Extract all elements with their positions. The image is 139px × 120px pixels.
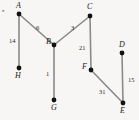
- graph-node-h: [17, 66, 22, 71]
- graph-node-c: [88, 14, 93, 19]
- node-label-e: E: [120, 107, 125, 115]
- edge-weight-a-b: 6: [36, 24, 39, 31]
- edge-weight-b-c: 3: [71, 24, 74, 31]
- edge-weight-a-h: 14: [9, 37, 16, 44]
- node-label-b: B: [46, 38, 51, 46]
- weighted-graph-figure: ▪ ABCDEFGH 14632113115: [0, 0, 139, 120]
- node-label-g: G: [51, 104, 57, 112]
- edge-weight-d-e: 15: [128, 76, 135, 83]
- node-label-h: H: [15, 72, 21, 80]
- graph-node-b: [52, 43, 57, 48]
- graph-edge-d-e: [122, 53, 123, 103]
- node-label-f: F: [82, 63, 87, 71]
- graph-canvas: [0, 0, 139, 120]
- graph-node-a: [17, 12, 22, 17]
- edge-weight-f-e: 31: [99, 88, 106, 95]
- graph-node-f: [89, 68, 94, 73]
- graph-edge-f-e: [91, 70, 123, 103]
- node-label-a: A: [16, 2, 21, 10]
- graph-node-e: [121, 101, 126, 106]
- graph-node-d: [120, 51, 125, 56]
- edge-weight-b-g: 1: [46, 70, 49, 77]
- graph-edge-c-f: [90, 16, 91, 70]
- node-label-d: D: [119, 41, 125, 49]
- node-label-c: C: [87, 3, 92, 11]
- graph-node-g: [52, 98, 57, 103]
- edge-weight-c-f: 21: [79, 44, 86, 51]
